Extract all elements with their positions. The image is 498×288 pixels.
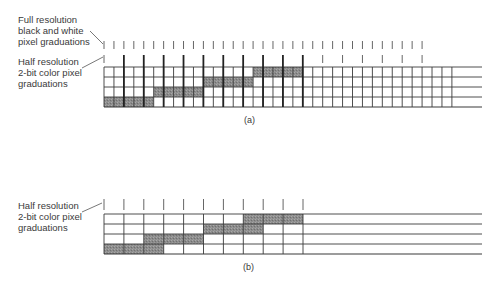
grid-a-full-and-half-resolution [104, 41, 482, 107]
shaded-pixel-cell [204, 224, 224, 234]
grid-b-half-resolution [104, 199, 482, 254]
shaded-pixel-cell [223, 224, 243, 234]
label-line: graduations [18, 78, 82, 89]
shaded-pixel-cell [203, 77, 213, 87]
shaded-pixel-cell [243, 77, 253, 87]
shaded-pixel-cell [273, 67, 283, 77]
caption-a: (a) [244, 115, 255, 125]
label-line: black and white [18, 25, 90, 36]
shaded-pixel-cell [124, 97, 134, 107]
shaded-pixel-cell [144, 97, 154, 107]
shaded-pixel-cell [193, 87, 203, 97]
shaded-pixel-cell [293, 67, 303, 77]
shaded-pixel-cell [104, 244, 124, 254]
shaded-pixel-cell [184, 234, 204, 244]
shaded-pixel-cell [283, 214, 303, 224]
shaded-pixel-cell [233, 77, 243, 87]
shaded-pixel-cell [253, 67, 263, 77]
shaded-pixel-cell [154, 87, 164, 97]
leader-line-half-resolution-b [82, 203, 102, 212]
shaded-pixel-cell [263, 214, 283, 224]
label-line: Full resolution [18, 14, 90, 25]
leader-line-full-resolution [90, 31, 103, 44]
label-half-resolution-a: Half resolution 2-bit color pixel gradua… [18, 56, 82, 89]
shaded-pixel-cell [263, 67, 273, 77]
label-line: 2-bit color pixel [18, 211, 82, 222]
shaded-pixel-cell [164, 87, 174, 97]
shaded-pixel-cell [124, 244, 144, 254]
shaded-pixel-cell [283, 67, 293, 77]
label-line: Half resolution [18, 200, 82, 211]
shaded-pixel-cell [174, 87, 184, 97]
shaded-pixel-cell [213, 77, 223, 87]
caption-b: (b) [243, 262, 254, 272]
leader-line-half-resolution-a [82, 57, 103, 68]
shaded-pixel-cell [134, 97, 144, 107]
shaded-pixel-cell [144, 234, 164, 244]
label-line: 2-bit color pixel [18, 67, 82, 78]
shaded-pixel-cell [243, 214, 263, 224]
shaded-pixel-cell [223, 77, 233, 87]
shaded-pixel-cell [243, 224, 263, 234]
label-line: graduations [18, 222, 82, 233]
label-full-resolution: Full resolution black and white pixel gr… [18, 14, 90, 47]
label-half-resolution-b: Half resolution 2-bit color pixel gradua… [18, 200, 82, 233]
label-line: Half resolution [18, 56, 82, 67]
shaded-pixel-cell [144, 244, 164, 254]
shaded-pixel-cell [114, 97, 124, 107]
shaded-pixel-cell [164, 234, 184, 244]
shaded-pixel-cell [184, 87, 194, 97]
shaded-pixel-cell [104, 97, 114, 107]
label-line: pixel graduations [18, 36, 90, 47]
